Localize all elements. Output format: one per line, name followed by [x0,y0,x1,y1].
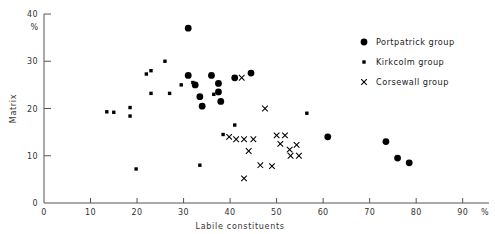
series-corsewall-group [226,75,301,181]
data-point [226,134,232,140]
data-point [241,136,247,142]
data-point [215,80,222,87]
data-point [324,133,331,140]
x-tick-label: 90 [457,208,468,217]
legend-item-kirkcolm-group: Kirkcolm group [362,57,444,67]
y-axis-title: Matrix [9,94,18,123]
data-point [208,72,215,79]
data-point [251,136,257,142]
legend: Portpatrick groupKirkcolm groupCorsewall… [361,37,455,87]
data-point [149,92,152,95]
x-tick-label: 80 [411,208,422,217]
y-tick-label: 40 [27,10,38,19]
data-point [305,112,308,115]
data-points-group [105,25,412,181]
x-tick-label: 20 [132,208,143,217]
data-point [274,133,280,139]
legend-marker-icon [361,39,368,46]
legend-item-label: Kirkcolm group [376,57,444,67]
data-point [128,114,131,117]
x-axis-unit-label: % [481,208,489,217]
plot-canvas: 0102030405060708090%010203040% Portpatri… [0,0,495,234]
data-point [269,163,275,169]
series-kirkcolm-group [105,60,308,171]
data-point [262,106,268,112]
x-tick-label: 50 [271,208,282,217]
legend-marker-icon [362,60,365,63]
data-point [394,155,401,162]
x-tick-label: 60 [318,208,329,217]
data-point [199,103,206,110]
data-point [296,153,302,159]
y-tick-label: 30 [27,57,38,66]
x-tick-label: 70 [364,208,375,217]
data-point [383,138,390,145]
x-tick-label: 40 [225,208,236,217]
y-axis-unit-label: % [30,23,38,32]
data-point [246,148,252,154]
data-point [180,83,183,86]
data-point [185,72,192,79]
y-tick-label: 10 [27,152,38,161]
data-point [288,153,294,159]
data-point [406,159,413,166]
data-point [258,162,264,168]
data-point [217,98,224,105]
data-point [145,72,148,75]
y-tick-label: 20 [27,105,38,114]
legend-item-label: Corsewall group [376,77,449,87]
legend-item-portpatrick-group: Portpatrick group [361,37,455,47]
data-point [163,60,166,63]
x-tick-label: 0 [41,208,47,217]
data-point [282,133,288,139]
data-point [168,92,171,95]
data-point [278,141,284,147]
y-tick-label: 0 [33,199,39,208]
data-point [198,164,201,167]
data-point [241,176,247,182]
axis-titles-group: Labile constituentsMatrix [9,94,285,231]
data-point [233,136,239,142]
data-point [196,93,203,100]
data-point [233,123,236,126]
data-point [239,75,245,81]
x-tick-label: 30 [178,208,189,217]
data-point [105,110,108,113]
data-point [149,69,152,72]
data-point [191,81,194,84]
scatter-plot-figure: 0102030405060708090%010203040% Portpatri… [0,0,495,234]
data-point [134,167,137,170]
legend-marker-icon [361,79,367,85]
data-point [221,133,224,136]
data-point [294,142,300,148]
data-point [231,74,238,81]
x-axis-title: Labile constituents [196,222,285,231]
legend-item-label: Portpatrick group [376,37,455,47]
data-point [212,93,215,96]
legend-item-corsewall-group: Corsewall group [361,77,449,87]
x-tick-label: 10 [85,208,96,217]
data-point [248,70,255,77]
data-point [215,89,222,96]
data-point [112,111,115,114]
data-point [185,25,192,32]
data-point [287,147,293,153]
data-point [128,106,131,109]
